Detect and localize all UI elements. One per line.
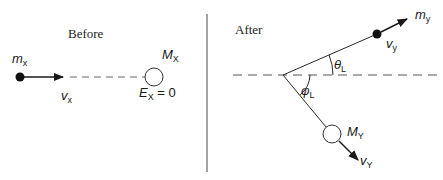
- after-panel: [233, 19, 443, 160]
- target-nucleus: [145, 68, 163, 86]
- residual-mass-label: MY: [347, 125, 364, 141]
- projectile-dot: [16, 73, 25, 82]
- theta-symbol: θ: [334, 57, 341, 72]
- ejectile-mass-label: my: [415, 8, 430, 24]
- residual-velocity-subscript: Y: [367, 160, 373, 170]
- before-panel: [16, 68, 164, 86]
- ejectile-velocity-arrow: [381, 19, 407, 32]
- projectile-velocity-subscript: x: [68, 95, 73, 105]
- phi-subscript: L: [309, 90, 314, 100]
- theta-subscript: L: [341, 64, 346, 74]
- target-mass-subscript: X: [173, 54, 179, 64]
- residual-mass-subscript: Y: [358, 131, 364, 141]
- ejectile-mass-subscript: y: [426, 14, 431, 24]
- projectile-velocity-label: vx: [61, 89, 72, 105]
- residual-nucleus: [323, 125, 341, 143]
- target-energy-value: = 0: [154, 85, 176, 100]
- after-title: After: [235, 23, 262, 36]
- ejectile-dot: [373, 30, 382, 39]
- residual-mass-symbol: M: [347, 124, 358, 139]
- ejectile-mass-symbol: m: [415, 7, 426, 22]
- before-title: Before: [68, 27, 103, 40]
- target-energy-symbol: E: [139, 85, 148, 100]
- ejectile-velocity-subscript: y: [393, 43, 398, 53]
- phi-angle-label: φL: [301, 84, 315, 100]
- target-mass-label: MX: [162, 48, 179, 64]
- target-mass-symbol: M: [162, 47, 173, 62]
- target-energy-label: EX = 0: [139, 86, 176, 102]
- ejectile-velocity-label: vy: [386, 37, 397, 53]
- theta-angle-arc: [329, 55, 333, 75]
- theta-angle-label: θL: [334, 58, 346, 74]
- projectile-mass-label: mx: [12, 52, 27, 68]
- residual-velocity-label: vY: [360, 154, 373, 170]
- residual-velocity-arrow: [339, 141, 358, 160]
- projectile-mass-subscript: x: [23, 58, 28, 68]
- projectile-mass-symbol: m: [12, 51, 23, 66]
- ejectile-path: [283, 34, 377, 75]
